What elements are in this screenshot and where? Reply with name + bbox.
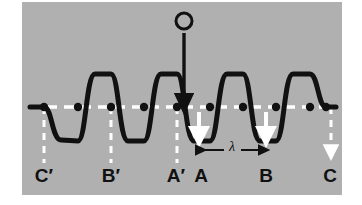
marker-label-a-prime: A′ xyxy=(167,165,186,186)
node-dot xyxy=(107,103,115,111)
node-dot xyxy=(239,103,247,111)
marker-label-c-prime: C′ xyxy=(35,165,54,186)
marker-label-a: A xyxy=(194,165,208,186)
node-dot xyxy=(272,103,280,111)
wave-diagram-figure: λ C′B′A′ABC xyxy=(0,0,362,205)
marker-label-b: B xyxy=(259,165,273,186)
node-dot xyxy=(40,103,48,111)
marker-label-c: C xyxy=(323,165,337,186)
node-dot xyxy=(173,103,181,111)
wave-diagram-canvas: λ C′B′A′ABC xyxy=(0,0,362,205)
node-dot xyxy=(74,103,82,111)
wavelength-symbol-label: λ xyxy=(228,139,235,154)
node-dot xyxy=(140,103,148,111)
marker-label-b-prime: B′ xyxy=(102,165,121,186)
node-dot xyxy=(322,103,330,111)
node-dot xyxy=(206,103,214,111)
node-dot xyxy=(306,103,314,111)
